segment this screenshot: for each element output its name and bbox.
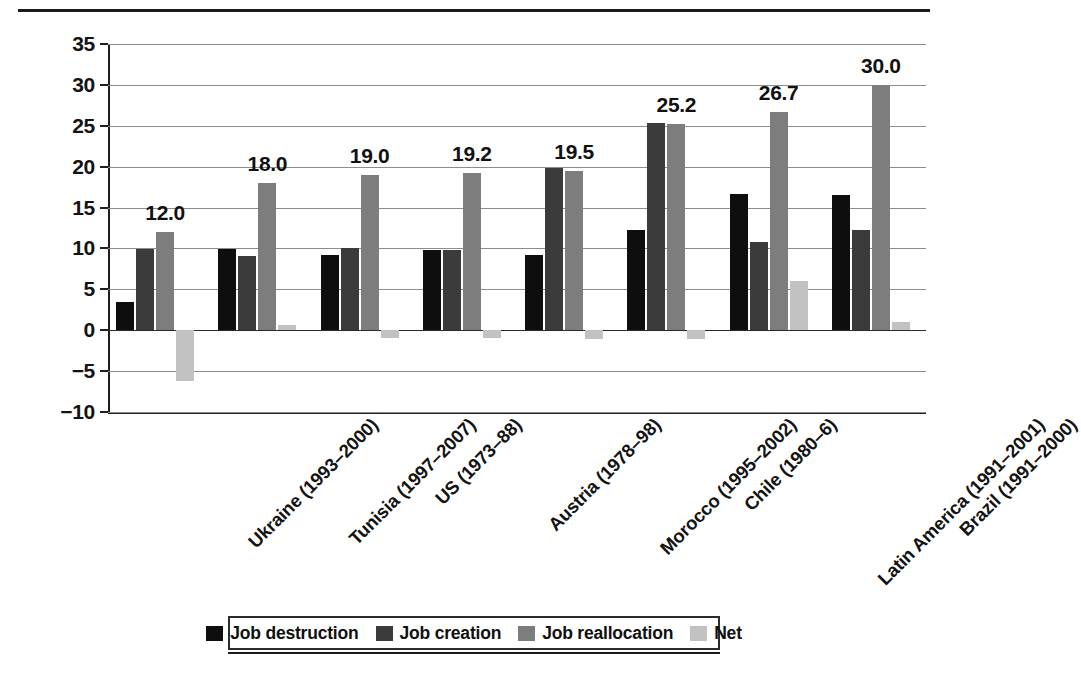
y-tick-label: −10 — [46, 400, 108, 424]
bar — [647, 123, 665, 331]
bar-group — [212, 44, 314, 414]
bar — [565, 171, 583, 330]
bar — [483, 330, 501, 337]
bar — [545, 168, 563, 330]
bar — [770, 112, 788, 330]
y-tick-label: 25 — [46, 114, 108, 138]
bar-value-label: 25.2 — [657, 93, 697, 117]
x-axis-label: Latin America (1991–2001) — [873, 414, 1049, 590]
bar-group — [519, 44, 621, 414]
bar — [832, 195, 850, 330]
bar — [443, 250, 461, 330]
y-tick-label: 35 — [46, 32, 108, 56]
y-tick-mark — [100, 288, 108, 290]
bar — [423, 250, 441, 330]
y-tick-mark — [100, 125, 108, 127]
legend-label: Job reallocation — [542, 623, 673, 644]
y-tick-label: −5 — [46, 359, 108, 383]
legend-item[interactable]: Job reallocation — [518, 623, 673, 644]
bar — [750, 242, 768, 330]
chart-legend: Job destructionJob creationJob reallocat… — [228, 616, 720, 650]
bar — [156, 232, 174, 330]
x-axis-label: Austria (1978–98) — [544, 414, 666, 536]
bar — [258, 183, 276, 330]
legend-swatch-icon — [518, 626, 535, 641]
bar-group — [110, 44, 212, 414]
bar — [238, 256, 256, 330]
legend-item[interactable]: Job destruction — [206, 623, 358, 644]
y-tick-label: 0 — [46, 318, 108, 342]
y-tick-mark — [100, 370, 108, 372]
top-divider-rule — [18, 9, 930, 12]
bar — [341, 248, 359, 331]
bar — [872, 85, 890, 330]
bar-group — [417, 44, 519, 414]
bar-value-label: 19.0 — [350, 144, 390, 168]
bar — [278, 325, 296, 330]
bar — [730, 194, 748, 330]
legend-label: Job creation — [400, 623, 502, 644]
bar-value-label: 19.5 — [554, 140, 594, 164]
bar-value-label: 30.0 — [861, 54, 901, 78]
y-tick-label: 30 — [46, 73, 108, 97]
y-tick-mark — [100, 207, 108, 209]
bar-groups — [110, 44, 926, 414]
y-tick-mark — [100, 247, 108, 249]
x-axis-category-labels: Ukraine (1993–2000)Tunisia (1997–2007)US… — [108, 414, 926, 604]
bar-value-label: 12.0 — [145, 201, 185, 225]
bar-value-label: 18.0 — [248, 152, 288, 176]
y-tick-mark — [100, 84, 108, 86]
legend-swatch-icon — [376, 626, 393, 641]
bar — [463, 173, 481, 330]
bar — [687, 330, 705, 339]
bar-group — [315, 44, 417, 414]
bar — [790, 281, 808, 330]
bar — [136, 249, 154, 330]
bar — [627, 230, 645, 330]
y-tick-mark — [100, 411, 108, 413]
bar — [667, 124, 685, 330]
bar — [361, 175, 379, 330]
bar — [525, 255, 543, 330]
bar — [892, 322, 910, 330]
bottom-divider-rule — [228, 652, 720, 654]
bar — [321, 255, 339, 330]
y-tick-label: 20 — [46, 155, 108, 179]
bar-value-label: 26.7 — [759, 81, 799, 105]
legend-swatch-icon — [690, 626, 707, 641]
y-tick-mark — [100, 43, 108, 45]
legend-swatch-icon — [206, 626, 223, 641]
bar — [176, 330, 194, 381]
bar — [218, 249, 236, 330]
y-tick-mark — [100, 329, 108, 331]
bar — [116, 302, 134, 330]
bar — [852, 230, 870, 330]
y-tick-label: 15 — [46, 196, 108, 220]
bar-value-label: 19.2 — [452, 142, 492, 166]
y-tick-label: 10 — [46, 236, 108, 260]
y-tick-label: 5 — [46, 277, 108, 301]
legend-item[interactable]: Job creation — [376, 623, 502, 644]
legend-label: Net — [714, 623, 742, 644]
plot-area: 35302520151050−5−10 12.018.019.019.219.5… — [108, 44, 926, 414]
legend-item[interactable]: Net — [690, 623, 742, 644]
bar — [585, 330, 603, 339]
bar-group — [826, 44, 928, 414]
bar — [381, 330, 399, 338]
legend-label: Job destruction — [230, 623, 358, 644]
y-tick-mark — [100, 166, 108, 168]
